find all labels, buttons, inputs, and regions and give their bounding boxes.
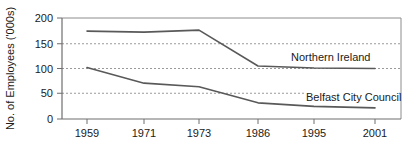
chart-canvas: 200 150 100 50 0 No. of Employees ('000s… [0,0,417,149]
x-axis-ticks [87,119,375,124]
x-tick-label-2001: 2001 [363,127,387,139]
y-tick-label-200: 200 [35,12,53,24]
x-tick-label-1959: 1959 [75,127,99,139]
x-tick-label-1995: 1995 [302,127,326,139]
y-tick-label-100: 100 [35,63,53,75]
x-tick-label-1973: 1973 [187,127,211,139]
series-label-northern-ireland: Northern Ireland [291,51,371,63]
y-tick-label-0: 0 [47,113,53,125]
y-axis-ticks [57,18,62,119]
series-label-belfast-city-council: Belfast City Council [306,91,401,103]
y-axis-title: No. of Employees ('000s) [4,7,16,130]
y-tick-label-150: 150 [35,38,53,50]
x-tick-label-1986: 1986 [246,127,270,139]
line-chart-figure: 200 150 100 50 0 No. of Employees ('000s… [0,0,417,149]
y-tick-label-50: 50 [41,87,53,99]
x-tick-label-1971: 1971 [132,127,156,139]
